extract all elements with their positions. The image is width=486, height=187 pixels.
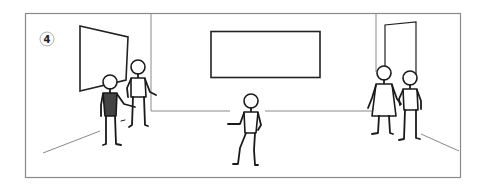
figure-walking-center — [228, 94, 261, 165]
projection-screen — [211, 32, 320, 78]
figure-standing-left — [127, 60, 156, 127]
panel-number: 4 — [44, 34, 51, 45]
motion-mark — [121, 120, 125, 121]
figure-dark-shirt — [101, 75, 135, 145]
figure-woman-dress — [368, 66, 401, 134]
panel-number-badge: 4 — [40, 32, 54, 46]
comic-panel-scene: 4 — [0, 0, 486, 187]
figure-man-right — [399, 71, 421, 140]
